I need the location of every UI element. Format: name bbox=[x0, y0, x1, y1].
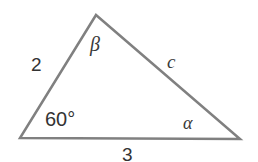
side-length-label-right: c bbox=[167, 52, 175, 71]
side-length-label-bottom: 3 bbox=[122, 145, 133, 162]
triangle-shape bbox=[0, 0, 258, 162]
angle-label-60-degrees: 60° bbox=[45, 109, 75, 129]
side-length-label-left: 2 bbox=[31, 55, 42, 74]
angle-label-beta: β bbox=[90, 34, 100, 54]
angle-label-alpha: α bbox=[183, 114, 192, 132]
diagram-canvas: 2 β c 60° α 3 bbox=[0, 0, 258, 162]
